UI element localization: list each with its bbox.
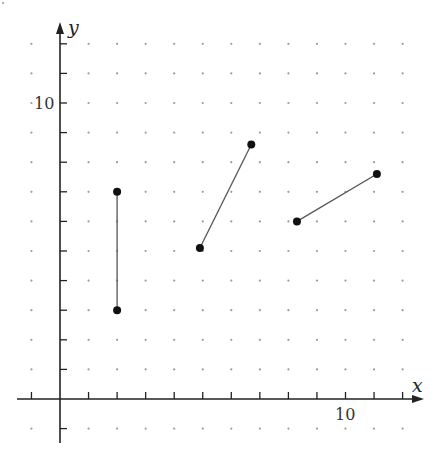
grid-dot <box>145 161 147 163</box>
x-tick-label-10: 10 <box>335 405 355 424</box>
grid-dot <box>287 102 289 104</box>
grid-dot <box>87 280 89 282</box>
grid-dot <box>259 102 261 104</box>
grid-dot <box>202 102 204 104</box>
grid-dot <box>173 220 175 222</box>
grid-dot <box>230 220 232 222</box>
grid-dot <box>316 132 318 134</box>
segment-endpoint <box>113 188 121 196</box>
grid-dot <box>316 72 318 74</box>
grid-dot <box>116 102 118 104</box>
grid-dot <box>145 102 147 104</box>
grid-dot <box>202 309 204 311</box>
grid-dot <box>316 102 318 104</box>
grid-dot <box>316 220 318 222</box>
grid-dot <box>373 102 375 104</box>
grid-dot <box>230 102 232 104</box>
grid-dot <box>402 280 404 282</box>
grid-dot <box>30 220 32 222</box>
grid-dot <box>287 280 289 282</box>
grid-dot <box>344 250 346 252</box>
grid-dot <box>316 161 318 163</box>
grid-dot <box>30 161 32 163</box>
x-axis-label: x <box>412 374 423 396</box>
grid-dot <box>230 428 232 430</box>
segment-2 <box>196 140 255 252</box>
segment-endpoint <box>373 170 381 178</box>
grid-dot <box>87 250 89 252</box>
grid-dot <box>116 132 118 134</box>
grid-dot <box>116 368 118 370</box>
grid-dot <box>87 72 89 74</box>
grid-dot <box>87 132 89 134</box>
grid-dot <box>87 43 89 45</box>
grid-dot <box>202 280 204 282</box>
grid-dot <box>173 43 175 45</box>
grid-dot <box>230 339 232 341</box>
grid-dot <box>30 428 32 430</box>
grid-dot <box>116 339 118 341</box>
grid-dot <box>402 428 404 430</box>
grid-dot <box>287 428 289 430</box>
grid-dot <box>287 309 289 311</box>
grid-dot <box>87 161 89 163</box>
grid-dot <box>373 368 375 370</box>
grid-dot <box>230 132 232 134</box>
grid-dot <box>116 428 118 430</box>
grid-dot <box>202 43 204 45</box>
grid-dot <box>173 161 175 163</box>
grid-dot <box>30 339 32 341</box>
grid-dot <box>402 309 404 311</box>
axis-ticks <box>31 44 402 429</box>
segment-line <box>297 174 377 221</box>
grid-dot <box>30 280 32 282</box>
grid-dot <box>402 368 404 370</box>
grid-dot <box>402 250 404 252</box>
grid-dot <box>259 191 261 193</box>
grid-dot <box>402 72 404 74</box>
grid-dot <box>373 250 375 252</box>
grid-dot <box>373 280 375 282</box>
grid-dot <box>230 309 232 311</box>
grid-dot <box>230 250 232 252</box>
grid-dot <box>344 72 346 74</box>
grid-dot <box>145 220 147 222</box>
grid-dot <box>344 339 346 341</box>
grid-dot <box>402 161 404 163</box>
grid-dot <box>145 43 147 45</box>
grid-dot <box>202 428 204 430</box>
grid-dot <box>230 72 232 74</box>
grid-dot <box>259 132 261 134</box>
grid-dot <box>202 368 204 370</box>
grid-dot <box>202 161 204 163</box>
grid-dot <box>230 368 232 370</box>
grid-dot <box>145 191 147 193</box>
grid-dot <box>402 102 404 104</box>
grid-dot <box>145 309 147 311</box>
grid-dot <box>30 102 32 104</box>
grid-dot <box>316 309 318 311</box>
grid-dot <box>344 43 346 45</box>
grid-dot <box>287 250 289 252</box>
grid-dot <box>202 220 204 222</box>
segment-line <box>200 144 251 248</box>
grid-dot <box>230 191 232 193</box>
stray-dot <box>2 2 4 4</box>
grid-dot <box>344 280 346 282</box>
grid-dot <box>202 132 204 134</box>
grid-dot <box>230 280 232 282</box>
segment-endpoint <box>113 306 121 314</box>
grid-dot <box>373 72 375 74</box>
grid-dot <box>402 339 404 341</box>
grid-dot <box>287 339 289 341</box>
grid-dot <box>373 161 375 163</box>
grid-dot <box>116 43 118 45</box>
grid-dot <box>173 250 175 252</box>
grid-dot <box>87 428 89 430</box>
grid-dot <box>287 191 289 193</box>
grid-dot <box>145 368 147 370</box>
grid-dot <box>287 132 289 134</box>
grid-dot <box>30 250 32 252</box>
grid-dot <box>259 250 261 252</box>
grid-dot <box>402 132 404 134</box>
